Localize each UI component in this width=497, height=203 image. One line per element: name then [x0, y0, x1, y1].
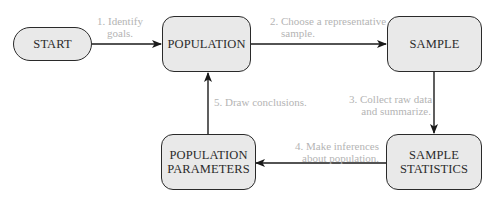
step4-label: 4. Make inferences about population.	[282, 140, 379, 164]
step3-label: 3. Collect raw data and summarize.	[349, 93, 431, 117]
step2-label: 2. Choose a representative sample.	[270, 15, 386, 39]
step4-line2: about population.	[282, 152, 379, 164]
node-population: POPULATION	[162, 16, 251, 72]
node-start: START	[13, 27, 92, 61]
node-population-parameters-line1: POPULATION	[169, 148, 247, 162]
step1-label: 1. Identify goals.	[95, 15, 145, 39]
node-sample: SAMPLE	[387, 16, 482, 72]
step2-line2: sample.	[270, 27, 386, 39]
step3-line2: and summarize.	[349, 105, 431, 117]
step5-label: 5. Draw conclusions.	[214, 96, 307, 108]
node-sample-statistics-line1: SAMPLE	[409, 148, 459, 162]
step1-line1: 1. Identify	[95, 15, 145, 27]
node-sample-statistics: SAMPLE STATISTICS	[386, 134, 482, 190]
node-population-parameters-line2: PARAMETERS	[167, 162, 250, 176]
step1-line2: goals.	[95, 27, 145, 39]
node-sample-label: SAMPLE	[410, 37, 460, 51]
node-start-label: START	[33, 37, 71, 51]
node-population-parameters: POPULATION PARAMETERS	[161, 134, 256, 190]
step4-line1: 4. Make inferences	[282, 140, 379, 152]
step3-line1: 3. Collect raw data	[349, 93, 431, 105]
step2-line1: 2. Choose a representative	[270, 15, 386, 27]
node-sample-statistics-line2: STATISTICS	[400, 162, 468, 176]
node-population-label: POPULATION	[167, 37, 245, 51]
step5-line1: 5. Draw conclusions.	[214, 96, 307, 108]
